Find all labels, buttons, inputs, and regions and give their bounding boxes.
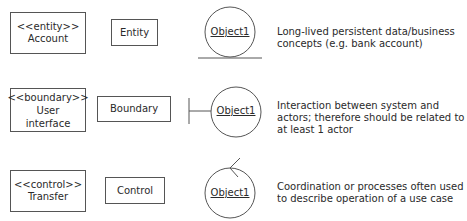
entity-icon <box>198 7 262 58</box>
boundary-icon <box>189 87 261 137</box>
control-icon <box>205 158 255 218</box>
